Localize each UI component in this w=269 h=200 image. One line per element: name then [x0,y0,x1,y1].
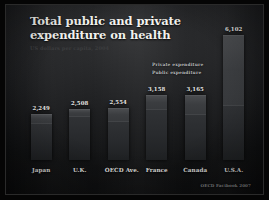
page-title-line-1: Total public and private [30,15,200,29]
bar-slot-uk: 2,508 [66,35,93,160]
chart-source-attribution: OECD Factbook 2007 [201,183,251,188]
bar-slot-france: 3,158 [143,35,170,160]
bar-segment-private [223,35,244,105]
stacked-bar [31,114,52,160]
stacked-bar [185,95,206,160]
bar-segment-public [108,121,129,160]
axis-label-uk: U.K. [66,167,93,173]
axis-label-canada: Canada [182,167,209,173]
bar-segment-public [185,114,206,160]
bar-slot-japan: 2,249 [28,35,55,160]
bar-segment-private [69,109,90,116]
bar-slot-usa: 6,102 [220,35,247,160]
axis-label-oecd-ave: OECD Ave. [105,167,132,173]
bar-segment-public [69,116,90,160]
bar-segment-public [31,123,52,160]
bar-segment-private [31,114,52,123]
stacked-bar [108,108,129,160]
bar-segment-public [223,105,244,160]
bar-group: 2,249 2,508 2,554 [22,35,253,160]
x-axis-labels: Japan U.K. OECD Ave. France Canada U.S.A… [22,164,253,176]
bar-slot-oecd-ave: 2,554 [105,35,132,160]
bar-slot-canada: 3,165 [182,35,209,160]
bar-segment-public [146,109,167,160]
bar-value-label: 3,165 [187,86,204,93]
bar-segment-private [185,95,206,114]
slide-canvas: Total public and private expenditure on … [0,0,269,200]
axis-label-france: France [143,167,170,173]
chart-plot-area: 2,249 2,508 2,554 [22,35,253,186]
bar-value-label: 6,102 [225,26,242,33]
bar-value-label: 2,508 [71,100,88,107]
slide-frame: Total public and private expenditure on … [5,4,264,195]
bar-value-label: 3,158 [148,86,165,93]
bar-segment-private [108,108,129,121]
axis-label-japan: Japan [28,167,55,173]
bar-value-label: 2,249 [33,105,50,112]
axis-label-usa: U.S.A. [220,167,247,173]
bar-segment-private [146,95,167,108]
bar-value-label: 2,554 [110,99,127,106]
stacked-bar [69,109,90,160]
stacked-bar [223,35,244,160]
stacked-bar [146,95,167,160]
